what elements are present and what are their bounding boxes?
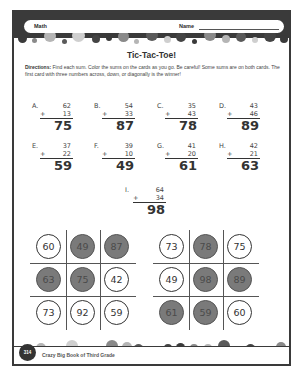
- addend-top: 62: [63, 102, 71, 110]
- card-cell[interactable]: 60: [36, 234, 61, 259]
- card-cell[interactable]: 61: [159, 300, 184, 325]
- page-title: Tic-Tac-Toe!: [14, 50, 289, 60]
- card-cell[interactable]: 87: [104, 234, 129, 259]
- addend-top: 43: [250, 102, 258, 110]
- decorative-dot: [222, 35, 230, 43]
- directions-text: Find each sum. Color the sums on the car…: [25, 64, 280, 77]
- subject-label: Math: [34, 23, 47, 29]
- card-cell[interactable]: 98: [193, 267, 218, 292]
- plus-sign: +: [40, 110, 45, 118]
- card-cell[interactable]: 78: [193, 234, 218, 259]
- card-cell[interactable]: 73: [36, 300, 61, 325]
- plus-sign: +: [165, 150, 170, 158]
- grid-line: [223, 230, 224, 330]
- decorative-dot: [92, 35, 100, 43]
- worksheet-page: Math Name Tic-Tac-Toe! Directions: Find …: [12, 10, 291, 366]
- plus-sign: +: [165, 110, 170, 118]
- card-cell[interactable]: 42: [104, 267, 129, 292]
- directions: Directions: Find each sum. Color the sum…: [25, 64, 280, 77]
- grid-line: [30, 263, 136, 264]
- problem-b: B.54+3387: [94, 102, 139, 142]
- problem-label: I.: [125, 186, 129, 194]
- grid-line: [100, 230, 101, 330]
- card-cell[interactable]: 73: [159, 234, 184, 259]
- decorative-dot: [236, 32, 246, 42]
- problem-label: D.: [219, 102, 226, 110]
- problem-label: A.: [32, 102, 38, 110]
- problem-label: C.: [157, 102, 164, 110]
- grid-line: [189, 230, 190, 330]
- addend-bottom: 10: [125, 150, 133, 158]
- bingo-card-2: 737875499889615960: [155, 230, 260, 335]
- problem-label: F.: [94, 142, 99, 150]
- card-cell[interactable]: 59: [104, 300, 129, 325]
- decorative-dot: [18, 34, 27, 43]
- decorative-dot: [62, 39, 67, 44]
- card-cell[interactable]: 92: [70, 300, 95, 325]
- addend-bottom: 33: [125, 110, 133, 118]
- header-bar: Math Name: [24, 20, 284, 33]
- addend-top: 35: [188, 102, 196, 110]
- problem-d: D.43+4689: [219, 102, 264, 142]
- addend-bottom: 20: [188, 150, 196, 158]
- card-cell[interactable]: 63: [36, 267, 61, 292]
- addend-bottom: 22: [63, 150, 71, 158]
- problem-label: H.: [219, 142, 226, 150]
- addend-top: 42: [250, 142, 258, 150]
- book-title: Crazy Big Book of Third Grade: [42, 352, 115, 358]
- addend-top: 37: [63, 142, 71, 150]
- decorative-dot: [106, 35, 112, 41]
- addend-bottom: 34: [156, 194, 164, 202]
- footer-bar: Crazy Big Book of Third Grade: [14, 346, 289, 364]
- card-cell[interactable]: 89: [227, 267, 252, 292]
- problem-label: B.: [94, 102, 101, 110]
- sum-answer[interactable]: 87: [116, 118, 134, 133]
- plus-sign: +: [102, 150, 107, 158]
- plus-sign: +: [102, 110, 107, 118]
- decorative-dot: [192, 39, 197, 44]
- page-number-badge: 314: [19, 344, 36, 361]
- addend-bottom: 43: [188, 110, 196, 118]
- plus-sign: +: [133, 194, 138, 202]
- problem-c: C.35+4378: [157, 102, 202, 142]
- name-label: Name: [179, 23, 194, 29]
- footer-band: Crazy Big Book of Third Grade 314: [14, 334, 289, 364]
- problem-g: G.41+2061: [157, 142, 202, 182]
- sum-answer[interactable]: 98: [147, 202, 165, 217]
- problem-i: I.64+3498: [125, 186, 170, 226]
- plus-sign: +: [227, 110, 232, 118]
- grid-line: [30, 296, 136, 297]
- addend-bottom: 46: [250, 110, 258, 118]
- sum-answer[interactable]: 61: [179, 158, 197, 173]
- problem-label: E.: [32, 142, 38, 150]
- decorative-dot: [252, 37, 258, 43]
- decorative-dot: [164, 36, 171, 43]
- problem-a: A.62+1375: [32, 102, 77, 142]
- sum-answer[interactable]: 89: [241, 118, 259, 133]
- addend-top: 41: [188, 142, 196, 150]
- card-cell[interactable]: 49: [159, 267, 184, 292]
- name-field-line[interactable]: [199, 29, 279, 30]
- bingo-card-1: 604987637542739259: [32, 230, 137, 335]
- decorative-dot: [280, 35, 288, 43]
- grid-line: [66, 230, 67, 330]
- problem-e: E.37+2259: [32, 142, 77, 182]
- sum-answer[interactable]: 78: [179, 118, 197, 133]
- card-cell[interactable]: 75: [70, 267, 95, 292]
- sum-answer[interactable]: 63: [241, 158, 259, 173]
- decorative-dot: [176, 32, 186, 42]
- plus-sign: +: [227, 150, 232, 158]
- addend-bottom: 13: [63, 110, 71, 118]
- addend-bottom: 21: [250, 150, 258, 158]
- card-cell[interactable]: 49: [70, 234, 95, 259]
- sum-answer[interactable]: 75: [54, 118, 72, 133]
- addend-top: 54: [125, 102, 133, 110]
- decorative-dot: [134, 39, 139, 44]
- card-cell[interactable]: 75: [227, 234, 252, 259]
- card-cell[interactable]: 60: [227, 300, 252, 325]
- sum-answer[interactable]: 59: [54, 158, 72, 173]
- problem-label: G.: [157, 142, 164, 150]
- addend-top: 64: [156, 186, 164, 194]
- sum-answer[interactable]: 49: [116, 158, 134, 173]
- card-cell[interactable]: 59: [193, 300, 218, 325]
